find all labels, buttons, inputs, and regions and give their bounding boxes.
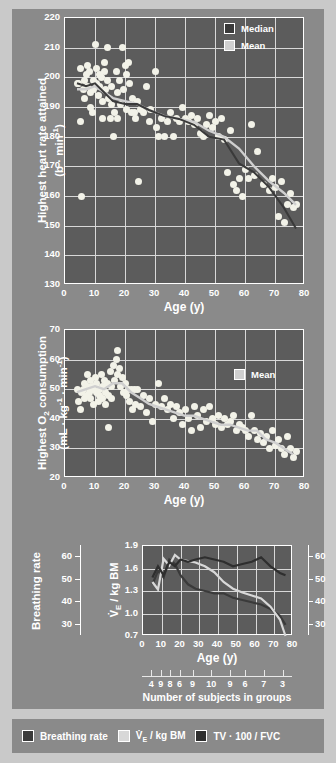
subjects-tick	[180, 670, 181, 676]
legend-item: Mean	[224, 40, 274, 51]
y-axis-title: Highest heart rate attained(b · min-1)	[36, 17, 66, 284]
tv-fvc-axis	[308, 545, 309, 635]
bottom-legend-swatch	[22, 730, 34, 742]
x-tick-label: 50	[202, 287, 226, 298]
subjects-count: 6	[177, 679, 182, 689]
subjects-tick	[151, 670, 152, 676]
breathing-rate-tick	[75, 601, 80, 602]
x-axis-title: Age (y)	[64, 493, 304, 507]
legend-item: Mean	[234, 369, 275, 380]
subjects-count: 7	[261, 679, 266, 689]
x-tick-label: 20	[112, 480, 136, 491]
chart-heart-rate: 1301401501601701801902002102200102030405…	[12, 9, 324, 309]
subjects-tick	[161, 670, 162, 676]
bottom-legend-item: Breathing rate	[22, 730, 108, 742]
subjects-count: 4	[149, 679, 154, 689]
x-tick-label: 20	[112, 287, 136, 298]
breathing-rate-tick	[75, 579, 80, 580]
tv-fvc-tick-label: 50	[315, 573, 326, 584]
bottom-legend-label: TV · 100 / FVC	[213, 731, 280, 742]
subjects-count: 9	[190, 679, 195, 689]
main-chart-panel: 1301401501601701801902002102200102030405…	[12, 9, 324, 709]
legend-label: Mean	[251, 369, 275, 380]
subjects-count: 8	[168, 679, 173, 689]
y-axis-title: Highest O2 consumption(mL · kg-1 · min-1…	[36, 329, 70, 477]
heart-rate-legend: MedianMean	[224, 23, 274, 51]
tv-fvc-tick	[308, 579, 313, 580]
subjects-tick	[230, 670, 231, 676]
x-tick-label: 80	[292, 287, 316, 298]
x-axis-title: Age (y)	[64, 300, 304, 314]
legend-item: Median	[224, 23, 274, 34]
median-line	[77, 83, 296, 228]
chart-breathing: 0.71.01.31.61.90102030405060708030405060…	[12, 537, 324, 665]
subjects-scale: 49869109673Number of subjects in groups	[142, 669, 292, 709]
subjects-count: 9	[228, 679, 233, 689]
tv-fvc-tick	[308, 556, 313, 557]
tv-fvc-tick-label: 30	[315, 618, 326, 629]
subjects-axis-line	[142, 676, 292, 677]
series-line	[152, 560, 285, 625]
figure-root: 1301401501601701801902002102200102030405…	[0, 0, 336, 763]
bottom-legend-swatch	[195, 730, 207, 742]
o2-consumption-trend-lines	[65, 330, 303, 476]
bottom-legend-swatch	[118, 730, 130, 742]
subjects-tick	[170, 670, 171, 676]
o2-consumption-legend: Mean	[234, 369, 275, 380]
mean-line	[77, 383, 293, 454]
x-tick-label: 80	[280, 638, 304, 649]
breathing-rate-tick	[75, 556, 80, 557]
subjects-tick	[245, 670, 246, 676]
x-tick-label: 0	[52, 480, 76, 491]
legend-swatch	[224, 40, 235, 51]
tv-fvc-tick-label: 60	[315, 550, 326, 561]
breathing-rate-tick-label: 50	[48, 573, 72, 584]
x-tick-label: 40	[172, 480, 196, 491]
x-tick-label: 10	[82, 287, 106, 298]
x-tick-label: 60	[232, 480, 256, 491]
subjects-tick	[211, 670, 212, 676]
x-tick-label: 30	[142, 480, 166, 491]
subjects-tick	[264, 670, 265, 676]
heart-rate-trend-lines	[65, 18, 303, 283]
x-tick-label: 40	[172, 287, 196, 298]
x-tick-label: 70	[262, 287, 286, 298]
x-tick-label: 70	[262, 480, 286, 491]
tv-fvc-tick-label: 40	[315, 595, 326, 606]
breathing-rate-tick-label: 60	[48, 550, 72, 561]
x-tick-label: 80	[292, 480, 316, 491]
subjects-caption: Number of subjects in groups	[62, 691, 336, 703]
breathing-series-lines	[143, 546, 291, 634]
legend-swatch	[234, 369, 245, 380]
x-tick-label: 50	[202, 480, 226, 491]
subjects-tick	[193, 670, 194, 676]
x-tick-label: 30	[142, 287, 166, 298]
legend-label: Mean	[241, 40, 265, 51]
breathing-rate-axis-title: Breathing rate	[30, 543, 42, 639]
subjects-count: 6	[243, 679, 248, 689]
bottom-legend: Breathing rateV̇E / kg BMTV · 100 / FVC	[12, 719, 324, 753]
bottom-legend-label: V̇E / kg BM	[136, 730, 186, 743]
breathing-rate-tick-label: 40	[48, 595, 72, 606]
legend-label: Median	[241, 23, 274, 34]
x-tick-label: 10	[82, 480, 106, 491]
breathing-plot-area	[142, 545, 292, 635]
mean-line	[77, 86, 296, 205]
bottom-legend-item: V̇E / kg BM	[118, 730, 186, 743]
bottom-legend-item: TV · 100 / FVC	[195, 730, 280, 742]
x-tick-label: 0	[52, 287, 76, 298]
subjects-count: 9	[158, 679, 163, 689]
breathing-rate-tick	[75, 624, 80, 625]
subjects-tick	[283, 670, 284, 676]
chart-o2-consumption: 20304050607001020304050607080Highest O2 …	[12, 321, 324, 526]
breathing-rate-tick-label: 30	[48, 618, 72, 629]
subjects-count: 10	[206, 679, 216, 689]
x-tick-label: 60	[232, 287, 256, 298]
ve-axis-title: V̇E / kg BM	[108, 543, 123, 637]
legend-swatch	[224, 23, 235, 34]
series-line	[152, 555, 285, 636]
breathing-rate-axis	[80, 545, 81, 635]
subjects-count: 3	[280, 679, 285, 689]
tv-fvc-tick	[308, 624, 313, 625]
bottom-legend-label: Breathing rate	[40, 731, 108, 742]
